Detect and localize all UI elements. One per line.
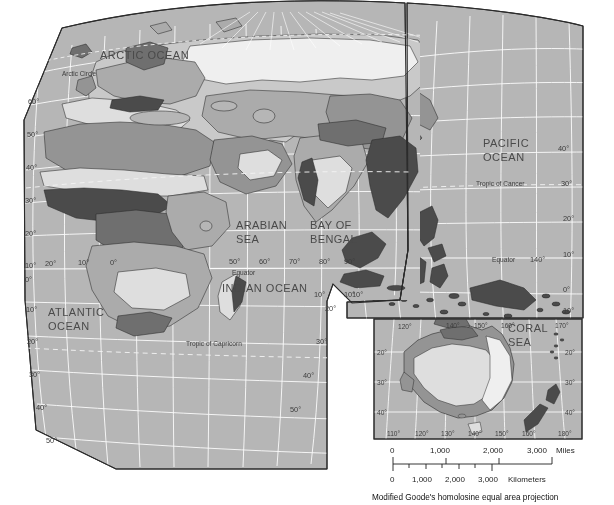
label-indian-ocean: INDIAN OCEAN — [222, 282, 307, 294]
scale-bar — [393, 457, 552, 471]
inset-lon-140-top: 140° — [446, 322, 460, 329]
label-atlantic-ocean-line2: OCEAN — [48, 320, 90, 332]
label-arctic-circle: Arctic Circle — [62, 70, 97, 77]
inset-lon-170-top: 170° — [555, 322, 569, 329]
inset-lat-40-right: 40° — [565, 409, 575, 416]
label-pacific-ocean-line2: OCEAN — [483, 151, 525, 163]
scale-miles-2000: 2,000 — [483, 446, 504, 455]
lat-left-20s: 20° — [27, 337, 38, 346]
lon-80e: 80° — [319, 257, 330, 266]
lat-right-40: 40° — [303, 371, 314, 380]
scale-miles-unit: Miles — [556, 446, 575, 455]
inset-lon-160-top: 160° — [501, 322, 515, 329]
lon-10w: 10° — [78, 258, 89, 267]
scale-miles-3000: 3,000 — [527, 446, 548, 455]
inset-lon-150-bot: 150° — [495, 430, 509, 437]
lon-90e: 90° — [344, 257, 355, 266]
inset-lon-160-bot: 160° — [522, 430, 536, 437]
lat-pac-0: 0° — [563, 285, 570, 294]
lat-left-40: 40° — [26, 163, 37, 172]
lon-0: 0° — [110, 258, 117, 267]
world-map-svg: ARCTIC OCEAN ATLANTIC OCEAN INDIAN OCEAN… — [0, 0, 614, 505]
map-figure: ARCTIC OCEAN ATLANTIC OCEAN INDIAN OCEAN… — [0, 0, 614, 505]
lat-right-30: 30° — [316, 337, 327, 346]
label-arabian-sea-line1: ARABIAN — [236, 219, 287, 231]
scale-km-unit: Kilometers — [508, 475, 546, 484]
label-tropic-of-cancer: Tropic of Cancer — [476, 180, 525, 188]
lat-left-30: 30° — [25, 196, 36, 205]
region-mediterranean-sea — [130, 111, 190, 125]
region-caspian-sea — [253, 109, 275, 123]
label-coral-sea-line2: SEA — [508, 336, 531, 348]
region-black-sea — [211, 101, 237, 111]
lat-right-20: 20° — [325, 304, 336, 313]
australia-inset — [374, 319, 582, 439]
lon-50e: 50° — [229, 257, 240, 266]
lat-pac-20: 20° — [563, 214, 574, 223]
inset-lon-180-bot: 180° — [558, 430, 572, 437]
inset-lon-150-top: 150° — [474, 322, 488, 329]
region-bass-islands — [458, 414, 466, 418]
label-tropic-of-capricorn: Tropic of Capricorn — [186, 340, 242, 348]
label-equator-left: Equator — [232, 269, 256, 277]
lon-split-left: 10° — [314, 290, 325, 299]
lat-right-50: 50° — [290, 405, 301, 414]
lat-pac-10s: 10° — [563, 306, 574, 315]
scale-miles-0: 0 — [390, 446, 395, 455]
scale-ticks-km — [393, 464, 492, 471]
label-atlantic-ocean-line1: ATLANTIC — [48, 306, 104, 318]
lon-60e: 60° — [259, 257, 270, 266]
lon-20w: 20° — [45, 259, 56, 268]
label-pacific-ocean-line1: PACIFIC — [483, 137, 529, 149]
scale-ticks-miles — [393, 457, 552, 464]
region-lake-victoria — [200, 221, 212, 231]
inset-lat-30-left: 30° — [377, 379, 387, 386]
lat-pac-30: 30° — [561, 179, 572, 188]
scale-km-1000: 1,000 — [412, 475, 433, 484]
inset-lon-140-bot: 140° — [468, 430, 482, 437]
scale-km-3000: 3,000 — [478, 475, 499, 484]
lat-left-10s: 10° — [26, 305, 37, 314]
lat-left-0: 0° — [25, 275, 32, 284]
lon-70e: 70° — [289, 257, 300, 266]
inset-lat-20-right: 20° — [565, 349, 575, 356]
lat-left-10: 10° — [25, 261, 36, 270]
lat-pac-40: 40° — [558, 144, 569, 153]
inset-lon-120-top: 120° — [398, 323, 412, 330]
scale-km-0: 0 — [390, 475, 395, 484]
inset-lon-110-bot: 110° — [387, 430, 401, 437]
inset-lat-40-left: 40° — [377, 409, 387, 416]
lat-pac-10: 10° — [563, 250, 574, 259]
region-siberia-tundra — [182, 38, 418, 84]
label-arctic-ocean: ARCTIC OCEAN — [100, 49, 189, 61]
inset-lat-30-right: 30° — [565, 379, 575, 386]
lat-left-60: 60° — [28, 97, 39, 106]
lat-left-30s: 30° — [29, 370, 40, 379]
lat-left-50: 50° — [27, 130, 38, 139]
inset-lat-20-left: 20° — [377, 349, 387, 356]
lat-left-20: 20° — [25, 229, 36, 238]
lat-left-50s: 50° — [46, 436, 57, 445]
label-equator-right: Equator — [492, 256, 516, 264]
label-arabian-sea-line2: SEA — [236, 233, 259, 245]
label-bay-of-bengal-line1: BAY OF — [310, 219, 352, 231]
label-bay-of-bengal-line2: BENGAL — [310, 233, 357, 245]
lon-140e: 140° — [530, 255, 545, 264]
inset-lon-120-bot: 120° — [415, 430, 429, 437]
scale-miles-1000: 1,000 — [430, 446, 451, 455]
projection-caption: Modified Goode's homolosine equal area p… — [372, 493, 559, 502]
scale-km-2000: 2,000 — [445, 475, 466, 484]
lon-split-right: 10° — [352, 290, 363, 299]
lat-left-40s: 40° — [36, 403, 47, 412]
inset-lon-130-bot: 130° — [441, 430, 455, 437]
